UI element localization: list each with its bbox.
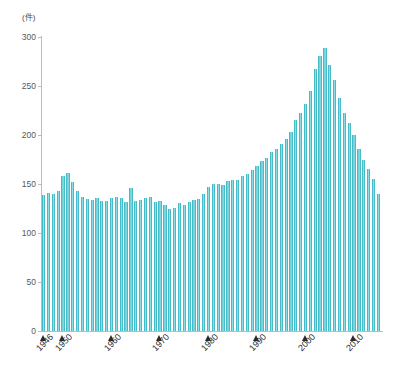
bar	[241, 176, 244, 331]
bar	[377, 194, 380, 331]
bar	[372, 179, 375, 331]
bar	[86, 199, 89, 331]
bar	[110, 198, 113, 331]
bar	[338, 98, 341, 331]
bar	[120, 198, 123, 331]
bar	[100, 201, 103, 331]
bar	[57, 191, 60, 331]
y-axis-tick-label: 250	[8, 81, 36, 91]
bar	[144, 198, 147, 331]
bar	[333, 80, 336, 331]
bar	[285, 139, 288, 331]
y-axis-tick-label: 150	[8, 179, 36, 189]
y-axis-tick-label: 0	[8, 326, 36, 336]
bar	[226, 181, 229, 331]
x-axis-tick-label: 1980	[199, 332, 220, 353]
bar	[178, 203, 181, 331]
bar	[91, 200, 94, 331]
bar	[158, 201, 161, 331]
bar	[207, 187, 210, 331]
y-axis-tick-label: 50	[8, 277, 36, 287]
bar	[71, 182, 74, 331]
bar	[251, 170, 254, 331]
bar	[76, 191, 79, 331]
bar	[280, 144, 283, 331]
bar	[343, 113, 346, 331]
bar	[129, 188, 132, 331]
bar	[188, 202, 191, 331]
bar	[323, 48, 326, 331]
bar	[299, 113, 302, 331]
x-axis-tick-label: 1960	[102, 332, 123, 353]
x-axis-tick-label: 2010	[344, 332, 365, 353]
bar	[154, 202, 157, 331]
bar	[352, 135, 355, 331]
y-axis-tick-label: 300	[8, 32, 36, 42]
bar-chart: (件) 050100150200250300 19461950196019701…	[0, 0, 402, 375]
bar	[149, 197, 152, 331]
bar	[246, 174, 249, 331]
bar	[47, 193, 50, 331]
x-axis-tick-label: 1970	[150, 332, 171, 353]
bar	[124, 202, 127, 331]
bar	[95, 198, 98, 331]
bar	[362, 160, 365, 332]
bar	[192, 200, 195, 331]
bar	[134, 201, 137, 331]
bar	[270, 152, 273, 331]
bar	[139, 200, 142, 331]
bar	[357, 149, 360, 331]
bar	[202, 194, 205, 331]
bar	[348, 123, 351, 331]
bar	[61, 176, 64, 331]
bar	[66, 173, 69, 331]
bar	[163, 205, 166, 331]
x-axis-tick-label: 1990	[247, 332, 268, 353]
bar	[318, 56, 321, 331]
bar	[52, 194, 55, 331]
bar	[314, 69, 317, 331]
bar	[183, 205, 186, 331]
bar	[255, 166, 258, 331]
bar	[328, 65, 331, 331]
bar-series	[42, 37, 382, 331]
bar	[217, 184, 220, 331]
plot-area	[42, 37, 382, 331]
y-axis-tick	[38, 331, 42, 332]
y-axis-tick-label: 100	[8, 228, 36, 238]
bar	[275, 149, 278, 331]
bar	[212, 184, 215, 331]
x-axis-tick-label: 2000	[296, 332, 317, 353]
bar	[197, 199, 200, 331]
y-axis-tick-label: 200	[8, 130, 36, 140]
y-axis-unit-label: (件)	[22, 11, 35, 22]
bar	[294, 120, 297, 331]
bar	[221, 185, 224, 331]
x-axis-tick-label: 1946	[34, 332, 55, 353]
bar	[367, 169, 370, 331]
bar	[231, 180, 234, 331]
bar	[236, 180, 239, 331]
bar	[309, 91, 312, 331]
bar	[81, 197, 84, 331]
bar	[173, 208, 176, 331]
x-axis-tick-label: 1950	[53, 332, 74, 353]
bar	[168, 209, 171, 332]
bar	[265, 158, 268, 331]
bar	[115, 197, 118, 331]
bar	[289, 132, 292, 331]
bar	[42, 195, 45, 331]
bar	[105, 201, 108, 331]
bar	[304, 104, 307, 331]
bar	[260, 161, 263, 331]
